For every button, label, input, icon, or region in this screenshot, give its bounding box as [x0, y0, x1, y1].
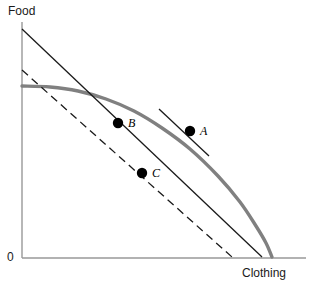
origin-label: 0: [7, 250, 14, 264]
point-label-a: A: [200, 124, 207, 139]
point-label-b: B: [128, 116, 135, 131]
data-point-a: [185, 126, 195, 136]
x-axis-title: Clothing: [242, 266, 286, 280]
data-point-b: [113, 118, 123, 128]
data-point-c: [137, 168, 147, 178]
point-label-c: C: [152, 166, 160, 181]
plot-background: [0, 0, 318, 286]
y-axis-title: Food: [8, 4, 35, 18]
ppf-diagram-figure: Food Clothing 0 A B C: [0, 0, 318, 286]
plot-canvas: [0, 0, 318, 286]
